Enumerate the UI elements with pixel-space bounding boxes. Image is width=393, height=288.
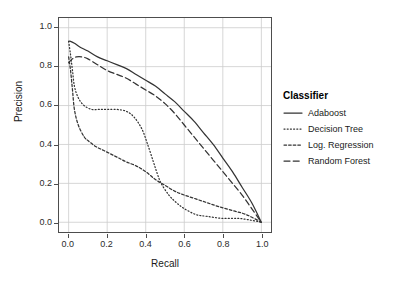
line-solid-icon — [283, 107, 303, 119]
y-tick-mark — [54, 66, 58, 67]
y-tick-label: 0.8 — [22, 60, 52, 70]
x-tick-mark — [68, 234, 69, 238]
series-line-random-forest — [69, 57, 262, 223]
legend-items: AdaboostDecision TreeLog. RegressionRand… — [283, 106, 393, 168]
y-tick-mark — [54, 223, 58, 224]
series-line-decision-tree — [69, 41, 262, 222]
x-tick-label: 0.2 — [92, 239, 122, 249]
line-dotted-icon — [283, 123, 303, 135]
x-tick-label: 0.0 — [53, 239, 83, 249]
plot-svg — [59, 18, 271, 232]
y-tick-mark — [54, 184, 58, 185]
legend-item-label: Random Forest — [308, 156, 370, 166]
y-tick-mark — [54, 145, 58, 146]
line-dashdot-icon — [283, 139, 303, 151]
y-tick-mark — [54, 105, 58, 106]
y-tick-mark — [54, 27, 58, 28]
x-tick-mark — [262, 234, 263, 238]
x-tick-mark — [107, 234, 108, 238]
legend-item-label: Decision Tree — [308, 124, 363, 134]
gridlines — [59, 18, 271, 232]
x-axis-title: Recall — [58, 258, 272, 269]
y-tick-label: 0.4 — [22, 139, 52, 149]
x-tick-mark — [146, 234, 147, 238]
x-tick-mark — [223, 234, 224, 238]
x-tick-label: 0.6 — [169, 239, 199, 249]
x-tick-mark — [184, 234, 185, 238]
y-tick-label: 0.0 — [22, 217, 52, 227]
y-tick-label: 0.2 — [22, 178, 52, 188]
y-tick-label: 1.0 — [22, 21, 52, 31]
legend-item: Decision Tree — [283, 122, 393, 136]
line-dashed-icon — [283, 155, 303, 167]
legend-item-label: Adaboost — [308, 108, 346, 118]
x-tick-label: 0.4 — [131, 239, 161, 249]
x-tick-label: 1.0 — [247, 239, 277, 249]
legend-item: Log. Regression — [283, 138, 393, 152]
legend-title: Classifier — [283, 90, 393, 101]
legend: Classifier AdaboostDecision TreeLog. Reg… — [283, 90, 393, 170]
y-tick-label: 0.6 — [22, 99, 52, 109]
data-curves — [69, 41, 262, 222]
series-line-log-regression — [69, 57, 262, 222]
legend-item: Adaboost — [283, 106, 393, 120]
y-axis-title: Precision — [13, 62, 24, 142]
plot-panel — [58, 17, 272, 233]
legend-item: Random Forest — [283, 154, 393, 168]
series-line-adaboost — [69, 41, 262, 222]
x-tick-label: 0.8 — [208, 239, 238, 249]
legend-item-label: Log. Regression — [308, 140, 374, 150]
chart-root: 0.00.20.40.60.81.0 Precision 0.00.20.40.… — [0, 0, 393, 288]
